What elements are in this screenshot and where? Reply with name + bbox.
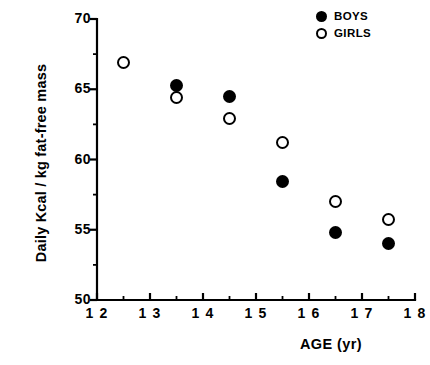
- data-point-girls: [170, 91, 183, 104]
- data-point-girls: [276, 136, 289, 149]
- scatter-plot-figure: 5055606570 1 21 31 41 51 61 71 8 Daily K…: [0, 0, 430, 365]
- data-point-boys: [329, 226, 342, 239]
- data-point-boys: [170, 79, 183, 92]
- data-point-boys: [276, 175, 289, 188]
- data-points-layer: [0, 0, 430, 365]
- data-point-girls: [382, 213, 395, 226]
- data-point-boys: [223, 90, 236, 103]
- data-point-girls: [117, 56, 130, 69]
- data-point-boys: [382, 237, 395, 250]
- data-point-girls: [329, 195, 342, 208]
- data-point-girls: [223, 112, 236, 125]
